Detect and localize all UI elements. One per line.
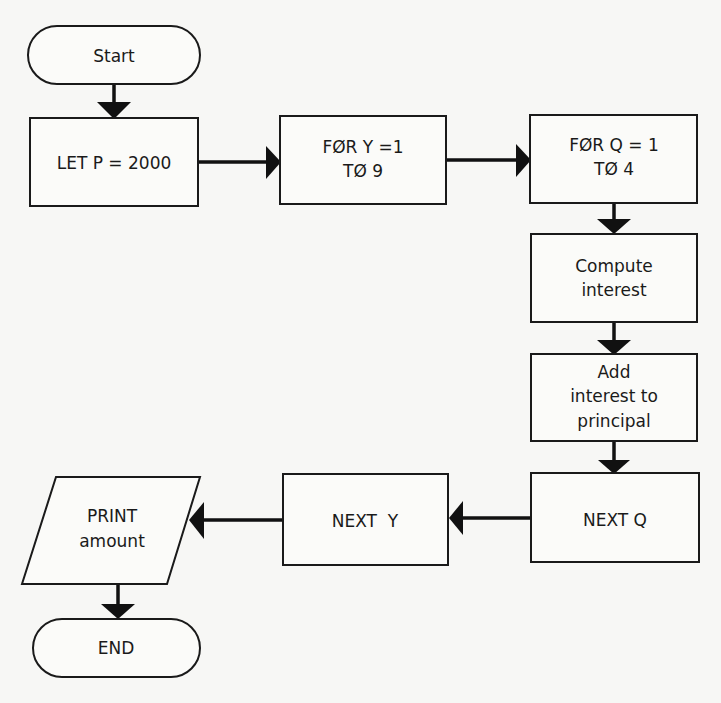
- edge-print-to-end: [101, 585, 135, 619]
- node-print-line-2: amount: [79, 531, 145, 551]
- node-next-y-label: NEXT Y: [332, 511, 399, 531]
- svg-text:NEXT Y: NEXT Y: [332, 511, 399, 531]
- edge-next-q-to-next-y: [449, 501, 531, 535]
- node-print: PRINT amount: [22, 477, 200, 584]
- node-let-p-label: LET P = 2000: [57, 153, 172, 173]
- svg-text:NEXT Q: NEXT Q: [583, 510, 647, 530]
- node-for-q-line-2: TØ 4: [593, 159, 634, 179]
- flowchart: Start LET P = 2000 FØR Y =1 TØ 9 FØR Q =…: [0, 0, 721, 703]
- node-next-q-label: NEXT Q: [583, 510, 647, 530]
- svg-text:PRINT: PRINT: [87, 506, 138, 526]
- node-start: Start: [28, 26, 200, 84]
- node-start-label: Start: [93, 46, 135, 66]
- node-end-label: END: [98, 638, 135, 658]
- node-for-q: FØR Q = 1 TØ 4: [530, 115, 697, 203]
- node-end: END: [33, 619, 200, 677]
- node-add-interest: Add interest to principal: [531, 354, 697, 441]
- node-next-y: NEXT Y: [283, 474, 448, 565]
- node-for-y-line-1: FØR Y =1: [322, 137, 403, 157]
- node-add-line-3: principal: [577, 411, 650, 431]
- svg-text:principal: principal: [577, 411, 650, 431]
- edge-compute-to-add: [597, 322, 631, 355]
- node-next-q: NEXT Q: [531, 473, 699, 562]
- svg-text:interest to: interest to: [570, 386, 658, 406]
- node-compute-line-1: Compute: [575, 256, 653, 276]
- edge-let-to-for-y: [198, 146, 281, 179]
- node-compute: Compute interest: [531, 234, 697, 322]
- node-let-p: LET P = 2000: [30, 118, 198, 206]
- svg-text:LET P = 2000: LET P = 2000: [57, 153, 172, 173]
- edge-next-y-to-print: [189, 502, 283, 539]
- svg-text:FØR Q = 1: FØR Q = 1: [569, 135, 659, 155]
- svg-text:TØ 9: TØ 9: [342, 161, 383, 181]
- node-compute-line-2: interest: [581, 280, 647, 300]
- node-for-y: FØR Y =1 TØ 9: [280, 116, 446, 204]
- edge-add-to-next-q: [598, 441, 630, 474]
- node-for-y-line-2: TØ 9: [342, 161, 383, 181]
- svg-text:amount: amount: [79, 531, 145, 551]
- svg-text:END: END: [98, 638, 135, 658]
- svg-text:interest: interest: [581, 280, 647, 300]
- svg-text:Start: Start: [93, 46, 135, 66]
- edge-for-q-to-compute: [597, 203, 631, 234]
- edge-for-y-to-for-q: [446, 144, 531, 177]
- svg-text:TØ 4: TØ 4: [593, 159, 634, 179]
- node-for-q-line-1: FØR Q = 1: [569, 135, 659, 155]
- node-add-line-1: Add: [598, 362, 631, 382]
- edge-start-to-let: [97, 84, 131, 119]
- node-print-line-1: PRINT: [87, 506, 138, 526]
- node-add-line-2: interest to: [570, 386, 658, 406]
- svg-text:Add: Add: [598, 362, 631, 382]
- svg-text:FØR Y =1: FØR Y =1: [322, 137, 403, 157]
- svg-text:Compute: Compute: [575, 256, 653, 276]
